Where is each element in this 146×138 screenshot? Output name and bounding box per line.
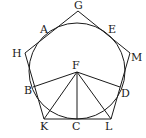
label-D: D xyxy=(121,87,130,100)
segment-FL xyxy=(77,72,111,119)
label-H: H xyxy=(12,47,22,60)
label-F: F xyxy=(72,59,80,72)
label-C: C xyxy=(72,120,80,133)
geometry-diagram: G A E H M F B D K C L xyxy=(0,0,146,138)
label-A: A xyxy=(39,23,49,36)
label-K: K xyxy=(40,120,49,133)
radii-from-center-F xyxy=(33,72,120,119)
label-G: G xyxy=(74,0,83,12)
segment-FB xyxy=(33,72,77,87)
label-E: E xyxy=(108,23,116,36)
segment-FD xyxy=(77,72,120,87)
label-M: M xyxy=(131,51,142,64)
label-B: B xyxy=(24,84,32,97)
label-L: L xyxy=(105,120,113,133)
segment-FK xyxy=(44,72,77,119)
